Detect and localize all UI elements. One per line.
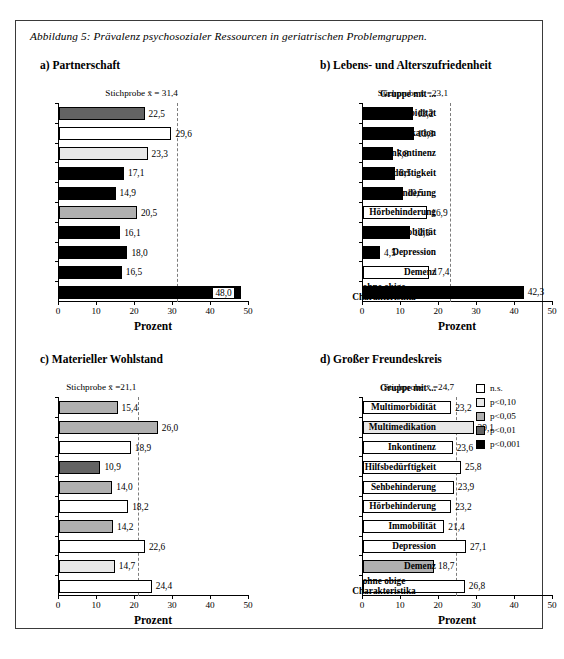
x-axis-title-d: Prozent — [362, 614, 552, 626]
x-tick — [58, 301, 59, 305]
x-tick — [96, 595, 97, 599]
bar — [59, 500, 128, 513]
category-label: Multimedikation — [332, 422, 436, 433]
x-tick — [134, 595, 135, 599]
bar — [59, 560, 115, 573]
bar-value-label: 14,2 — [117, 522, 133, 532]
chart-title-d: d) Großer Freundeskreis — [320, 353, 442, 365]
bar — [59, 580, 152, 593]
x-tick — [248, 301, 249, 305]
x-tick — [552, 595, 553, 599]
x-tick-label: 50 — [236, 600, 260, 610]
y-tick — [359, 496, 363, 497]
x-tick-label: 10 — [388, 600, 412, 610]
bar-value-label: 22,6 — [149, 542, 165, 552]
legend-label: p<0,10 — [490, 397, 516, 407]
y-tick — [55, 575, 59, 576]
y-tick — [359, 456, 363, 457]
y-tick — [359, 261, 363, 262]
plot-area-a: 01020304050Stichprobe x̄ = 31,422,529,62… — [58, 103, 248, 301]
y-tick — [359, 536, 363, 537]
x-tick — [476, 301, 477, 305]
y-tick — [359, 242, 363, 243]
x-tick-label: 40 — [198, 600, 222, 610]
category-label: Demenz — [332, 561, 436, 572]
x-axis-c — [58, 595, 249, 596]
y-tick — [359, 397, 363, 398]
bar-value-label: 16,1 — [124, 228, 140, 238]
x-tick-label: 30 — [464, 600, 488, 610]
x-axis-a — [58, 301, 249, 302]
category-label: Hörbehinderung — [332, 207, 436, 218]
figure-caption: Abbildung 5: Prävalenz psychosozialer Re… — [30, 30, 427, 42]
bar-value-label: 14,0 — [116, 482, 132, 492]
x-tick-label: 40 — [198, 306, 222, 316]
bar — [59, 246, 127, 259]
y-tick — [55, 182, 59, 183]
x-tick — [210, 595, 211, 599]
y-tick — [55, 261, 59, 262]
category-label: Sehbehinderung — [332, 482, 436, 493]
bar-value-label: 14,9 — [120, 188, 136, 198]
y-tick — [55, 397, 59, 398]
x-tick-label: 20 — [426, 600, 450, 610]
y-tick — [55, 103, 59, 104]
plot-area-b: 01020304050Stichprobe x̄ =23,113,2Multim… — [362, 103, 552, 301]
y-tick — [55, 202, 59, 203]
y-tick — [55, 162, 59, 163]
legend-item-3: p<0,01 — [476, 425, 540, 437]
y-tick — [55, 476, 59, 477]
x-tick — [552, 301, 553, 305]
chart-title-a: a) Partnerschaft — [40, 59, 120, 71]
bar-value-label: 22,5 — [149, 109, 165, 119]
legend-swatch — [476, 384, 485, 393]
category-label: Hilfsbedürftigkeit — [332, 462, 436, 473]
y-tick — [359, 437, 363, 438]
category-label: Multimedikation — [332, 128, 436, 139]
bar-value-label: 48,0 — [212, 287, 234, 299]
bar — [59, 520, 113, 533]
y-tick — [359, 202, 363, 203]
chart-panel-b: b) Lebens- und Alterszufriedenheit010203… — [284, 59, 564, 347]
legend-swatch — [476, 412, 485, 421]
y-tick — [55, 417, 59, 418]
bar — [59, 481, 112, 494]
bar-value-label: 23,6 — [457, 443, 473, 453]
bar — [59, 206, 137, 219]
y-tick — [55, 437, 59, 438]
bar-value-label: 17,1 — [128, 168, 144, 178]
y-tick — [55, 456, 59, 457]
category-label: Inkontinenz — [332, 442, 436, 453]
bar — [59, 167, 124, 180]
chart-title-c: c) Materieller Wohlstand — [40, 353, 163, 365]
y-tick — [359, 516, 363, 517]
bar — [59, 540, 145, 553]
category-label: Immobilität — [332, 521, 436, 532]
legend-swatch — [476, 426, 485, 435]
x-tick — [438, 595, 439, 599]
legend-label: p<0,001 — [490, 439, 520, 449]
bar-value-label: 18,9 — [135, 443, 151, 453]
bar — [59, 226, 120, 239]
plot-area-c: 01020304050Stichprobe x̄ =21,115,426,018… — [58, 397, 248, 595]
bar-value-label: 27,1 — [470, 542, 486, 552]
x-tick — [248, 595, 249, 599]
sample-mean-label-a: Stichprobe x̄ = 31,4 — [105, 88, 178, 98]
bar-value-label: 14,7 — [119, 561, 135, 571]
bar-value-label: 23,2 — [455, 502, 471, 512]
bar-value-label: 21,4 — [448, 522, 464, 532]
x-tick-label: 50 — [236, 306, 260, 316]
y-tick — [359, 103, 363, 104]
legend-item-0: n.s. — [476, 383, 540, 395]
bar-value-label: 42,3 — [528, 287, 544, 297]
x-tick-label: 30 — [464, 306, 488, 316]
bar — [59, 266, 122, 279]
y-tick — [55, 143, 59, 144]
category-label: Hörbehinderung — [332, 501, 436, 512]
category-label: Inkontinenz — [332, 148, 436, 159]
bar — [59, 461, 100, 474]
bar-value-label: 23,2 — [455, 403, 471, 413]
y-tick — [55, 242, 59, 243]
legend-item-4: p<0,001 — [476, 439, 540, 451]
bar-value-label: 18,2 — [132, 502, 148, 512]
